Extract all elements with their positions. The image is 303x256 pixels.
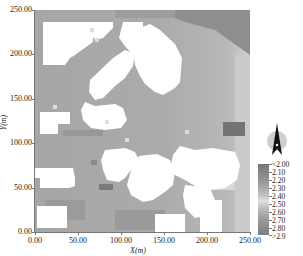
colorbar-label: >2.9 (272, 233, 286, 240)
x-tick-mark (35, 232, 36, 235)
colorbar-label: 2.10 (272, 169, 285, 176)
y-tick-label: 250.00 (0, 6, 32, 14)
colorbar-tick (269, 204, 272, 205)
colorbar-tick (269, 235, 272, 236)
y-tick-label: 100.00 (0, 139, 32, 147)
y-axis-line (34, 10, 35, 233)
north-arrow-icon (264, 121, 290, 157)
heatmap-plot-area (35, 10, 250, 232)
x-tick-mark (78, 232, 79, 235)
colorbar-tick (269, 220, 272, 221)
colorbar-label: <2.00 (272, 161, 289, 168)
colorbar-tick (269, 172, 272, 173)
x-tick-mark (250, 232, 251, 235)
x-tick-label: 250.00 (230, 237, 270, 245)
y-axis-label: Y(m) (0, 115, 8, 131)
x-axis-line (34, 232, 251, 233)
y-tick-label: 150.00 (0, 95, 32, 103)
heatmap-grid (35, 10, 250, 232)
colorbar-label: 2.70 (272, 217, 285, 224)
y-tick-mark (32, 188, 35, 189)
colorbar-label: 2.50 (272, 201, 285, 208)
colorbar-label: 2.80 (272, 225, 285, 232)
colorbar-tick (269, 212, 272, 213)
y-tick-label: 50.00 (0, 184, 32, 192)
colorbar-tick (269, 196, 272, 197)
colorbar-tick (269, 228, 272, 229)
colorbar-tick (269, 188, 272, 189)
colorbar-label: 2.40 (272, 193, 285, 200)
x-tick-label: 50.00 (58, 237, 98, 245)
x-tick-label: 150.00 (144, 237, 184, 245)
colorbar-tick (269, 164, 272, 165)
colorbar-label: 2.60 (272, 209, 285, 216)
x-tick-label: 0.00 (15, 237, 55, 245)
y-tick-mark (32, 143, 35, 144)
x-axis-label: X(m) (130, 246, 146, 255)
x-tick-label: 100.00 (101, 237, 141, 245)
colorbar-label: 2.30 (272, 185, 285, 192)
x-tick-mark (121, 232, 122, 235)
x-tick-mark (164, 232, 165, 235)
y-tick-mark (32, 99, 35, 100)
y-tick-label: 0.00 (0, 228, 32, 236)
y-tick-mark (32, 10, 35, 11)
x-tick-mark (207, 232, 208, 235)
colorbar (258, 164, 269, 235)
y-tick-mark (32, 54, 35, 55)
y-tick-label: 200.00 (0, 50, 32, 58)
colorbar-label: 2.20 (272, 177, 285, 184)
x-tick-label: 200.00 (187, 237, 227, 245)
colorbar-tick (269, 180, 272, 181)
